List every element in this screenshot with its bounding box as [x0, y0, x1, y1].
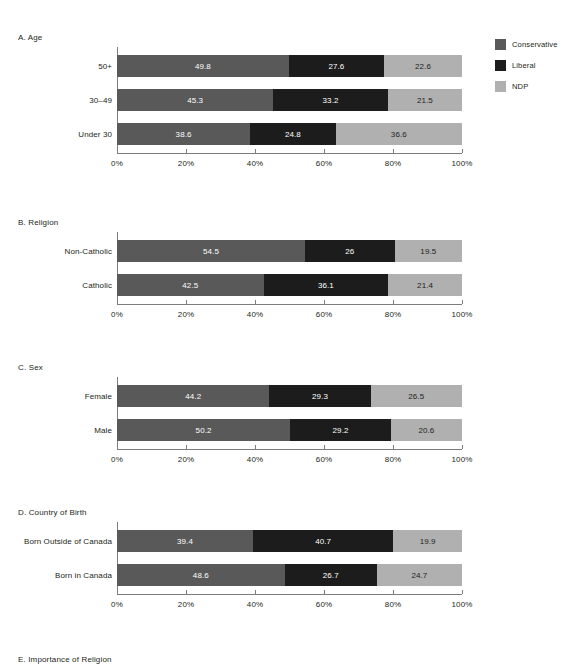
x-axis-line — [117, 304, 462, 305]
row-label: Non-Catholic — [0, 240, 112, 262]
bar-segment-liberal[interactable]: 29.3 — [269, 385, 370, 407]
bar-value-label: 39.4 — [177, 537, 193, 546]
stacked-bar: 50.229.220.6 — [117, 419, 462, 441]
x-axis-tick-label: 20% — [166, 159, 206, 168]
x-axis-tick-label: 40% — [235, 600, 275, 609]
x-axis-tick-label: 100% — [442, 310, 482, 319]
bar-segment-conservative[interactable]: 49.8 — [117, 55, 289, 77]
bar-segment-liberal[interactable]: 26 — [305, 240, 395, 262]
bar-segment-ndp[interactable]: 19.5 — [395, 240, 462, 262]
stacked-bar: 49.827.622.6 — [117, 55, 462, 77]
x-axis-tick-label: 20% — [166, 455, 206, 464]
bar-segment-ndp[interactable]: 36.6 — [336, 123, 462, 145]
bar-value-label: 50.2 — [196, 426, 212, 435]
bar-segment-conservative[interactable]: 50.2 — [117, 419, 290, 441]
bar-value-label: 20.6 — [418, 426, 434, 435]
bar-value-label: 26.5 — [408, 392, 424, 401]
bar-segment-conservative[interactable]: 38.6 — [117, 123, 250, 145]
x-axis-tick — [462, 300, 463, 304]
bar-segment-conservative[interactable]: 39.4 — [117, 530, 253, 552]
bar-segment-conservative[interactable]: 54.5 — [117, 240, 305, 262]
bar-segment-liberal[interactable]: 27.6 — [289, 55, 384, 77]
legend-item-conservative[interactable]: Conservative — [495, 36, 558, 53]
bar-value-label: 19.9 — [420, 537, 436, 546]
x-axis-tick-label: 20% — [166, 600, 206, 609]
row-label: 30–49 — [0, 89, 112, 111]
chart-row: Female44.229.326.5 — [0, 385, 500, 407]
stacked-bar: 42.536.121.4 — [117, 274, 462, 296]
x-axis-tick — [393, 300, 394, 304]
x-axis-tick — [324, 300, 325, 304]
legend-item-liberal[interactable]: Liberal — [495, 57, 558, 74]
legend-item-ndp[interactable]: NDP — [495, 78, 558, 95]
chart-legend: ConservativeLiberalNDP — [495, 36, 558, 99]
chart-row: Under 3038.624.836.6 — [0, 123, 500, 145]
bar-segment-conservative[interactable]: 45.3 — [117, 89, 273, 111]
bar-segment-conservative[interactable]: 44.2 — [117, 385, 269, 407]
bar-segment-liberal[interactable]: 24.8 — [250, 123, 336, 145]
x-axis-tick — [117, 300, 118, 304]
bar-segment-liberal[interactable]: 26.7 — [285, 564, 377, 586]
panel-title: A. Age — [18, 33, 42, 42]
panel-title: C. Sex — [18, 363, 43, 372]
x-axis-tick-label: 0% — [97, 600, 137, 609]
x-axis-labels: 0%20%40%60%80%100% — [0, 600, 500, 612]
x-axis-tick — [462, 149, 463, 153]
stacked-bar: 48.626.724.7 — [117, 564, 462, 586]
bar-segment-liberal[interactable]: 33.2 — [273, 89, 388, 111]
x-axis-tick — [393, 590, 394, 594]
x-axis-tick — [117, 590, 118, 594]
x-axis-tick — [117, 149, 118, 153]
x-axis-tick — [186, 149, 187, 153]
x-axis-tick — [255, 149, 256, 153]
bar-value-label: 36.6 — [391, 130, 407, 139]
bar-value-label: 22.6 — [415, 62, 431, 71]
bar-value-label: 29.2 — [333, 426, 349, 435]
stacked-bar: 54.52619.5 — [117, 240, 462, 262]
stacked-bar: 45.333.221.5 — [117, 89, 462, 111]
bar-value-label: 19.5 — [420, 247, 436, 256]
stacked-bar: 39.440.719.9 — [117, 530, 462, 552]
x-axis-tick-label: 40% — [235, 310, 275, 319]
x-axis-tick-label: 60% — [304, 455, 344, 464]
bar-value-label: 24.7 — [411, 571, 427, 580]
x-axis-tick-label: 20% — [166, 310, 206, 319]
chart-row: Male50.229.220.6 — [0, 419, 500, 441]
x-axis-tick — [393, 149, 394, 153]
x-axis-tick — [186, 590, 187, 594]
x-axis-tick-label: 100% — [442, 455, 482, 464]
x-axis-tick-label: 60% — [304, 310, 344, 319]
bar-segment-ndp[interactable]: 21.5 — [388, 89, 462, 111]
x-axis-tick — [255, 300, 256, 304]
bar-segment-ndp[interactable]: 24.7 — [377, 564, 462, 586]
x-axis-tick-label: 100% — [442, 600, 482, 609]
x-axis-tick-label: 80% — [373, 159, 413, 168]
bar-segment-liberal[interactable]: 36.1 — [264, 274, 389, 296]
bar-segment-ndp[interactable]: 26.5 — [371, 385, 462, 407]
chart-row: Born Outside of Canada39.440.719.9 — [0, 530, 500, 552]
x-axis-tick — [186, 445, 187, 449]
x-axis-tick-label: 0% — [97, 310, 137, 319]
bar-segment-ndp[interactable]: 22.6 — [384, 55, 462, 77]
bar-segment-ndp[interactable]: 19.9 — [393, 530, 462, 552]
bar-segment-conservative[interactable]: 42.5 — [117, 274, 264, 296]
panel-title: E. Importance of Religion — [18, 655, 112, 664]
x-axis-tick-label: 60% — [304, 159, 344, 168]
stacked-bar: 38.624.836.6 — [117, 123, 462, 145]
bar-value-label: 49.8 — [195, 62, 211, 71]
x-axis-tick — [324, 590, 325, 594]
bar-segment-liberal[interactable]: 40.7 — [253, 530, 393, 552]
bar-segment-liberal[interactable]: 29.2 — [290, 419, 391, 441]
chart-row: 50+49.827.622.6 — [0, 55, 500, 77]
x-axis-tick-label: 40% — [235, 455, 275, 464]
stacked-bar: 44.229.326.5 — [117, 385, 462, 407]
bar-value-label: 21.5 — [417, 96, 433, 105]
x-axis-tick-label: 0% — [97, 159, 137, 168]
row-label: Born in Canada — [0, 564, 112, 586]
bar-segment-conservative[interactable]: 48.6 — [117, 564, 285, 586]
x-axis-tick-label: 80% — [373, 455, 413, 464]
bar-segment-ndp[interactable]: 21.4 — [388, 274, 462, 296]
bar-segment-ndp[interactable]: 20.6 — [391, 419, 462, 441]
chart-row: 30–4945.333.221.5 — [0, 89, 500, 111]
bar-value-label: 40.7 — [315, 537, 331, 546]
